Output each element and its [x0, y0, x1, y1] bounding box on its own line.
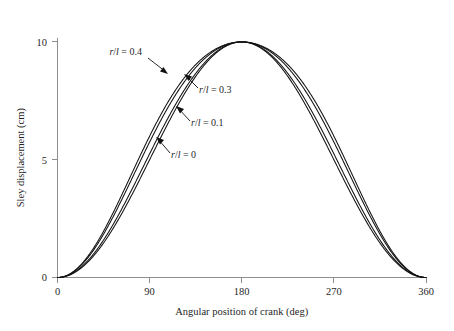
x-axis-title: Angular position of crank (deg) — [175, 306, 308, 318]
sley-displacement-chart: 0 5 10 0 90 180 270 360 Angular position… — [0, 0, 454, 331]
annotation-eq-0.3: = — [208, 84, 219, 95]
annotation-eq-0: = — [180, 149, 191, 160]
y-tick-label-5: 5 — [42, 155, 47, 166]
x-tick-label-90: 90 — [144, 286, 155, 297]
x-tick-label-360: 360 — [418, 286, 434, 297]
chart-background — [0, 0, 454, 331]
annotation-label-0.1: r/l = 0.1 — [191, 117, 224, 128]
annotation-eq-0.4: = — [119, 46, 130, 57]
x-tick-label-270: 270 — [326, 286, 342, 297]
annotation-label-0.4: r/l = 0.4 — [109, 46, 142, 57]
annotation-value-0.3: 0.3 — [219, 84, 232, 95]
annotation-label-0: r/l = 0 — [171, 149, 196, 160]
annotation-value-0.1: 0.1 — [211, 117, 224, 128]
chart-figure: 0 5 10 0 90 180 270 360 Angular position… — [0, 0, 454, 331]
annotation-value-0.4: 0.4 — [130, 46, 143, 57]
annotation-eq-0.1: = — [200, 117, 211, 128]
y-tick-label-10: 10 — [37, 37, 48, 48]
x-tick-label-180: 180 — [234, 286, 250, 297]
x-tick-label-0: 0 — [55, 286, 60, 297]
y-axis-title: Sley displacement (cm) — [15, 108, 27, 208]
annotation-value-0: 0 — [191, 149, 196, 160]
y-tick-label-0: 0 — [42, 272, 47, 283]
annotation-label-0.3: r/l = 0.3 — [199, 84, 232, 95]
